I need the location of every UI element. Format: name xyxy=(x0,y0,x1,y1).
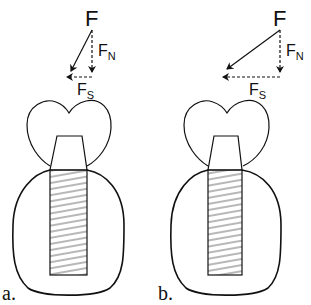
panel-label-a: a. xyxy=(2,282,16,304)
normal-force-label-b: FN xyxy=(286,42,304,62)
implant-screw-a xyxy=(50,170,87,275)
abutment-b xyxy=(208,136,242,170)
implant-force-diagram: F FN FS a. F FN FS b. xyxy=(0,0,311,305)
force-label-a: F xyxy=(85,6,98,31)
shear-force-label-b: FS xyxy=(249,81,266,101)
abutment-a xyxy=(50,136,87,170)
panel-a: F FN FS a. xyxy=(2,6,124,304)
shear-force-label-a: FS xyxy=(77,81,94,101)
force-vectors-a: F FN FS xyxy=(67,6,116,101)
resultant-force-arrow-b xyxy=(227,30,280,69)
resultant-force-arrow-a xyxy=(71,30,92,71)
panel-label-b: b. xyxy=(158,282,173,304)
panel-b: F FN FS b. xyxy=(158,6,304,304)
force-vectors-b: F FN FS xyxy=(223,6,304,101)
force-label-b: F xyxy=(273,6,286,31)
implant-screw-b xyxy=(208,170,242,275)
normal-force-label-a: FN xyxy=(98,42,116,62)
